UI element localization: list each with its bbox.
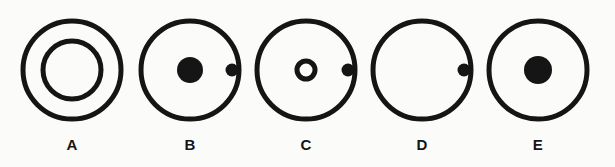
option-e[interactable]: E bbox=[480, 0, 596, 167]
option-b[interactable]: B bbox=[132, 0, 248, 167]
option-label-b: B bbox=[132, 136, 248, 154]
outer-circle bbox=[373, 21, 471, 119]
right-small-dot bbox=[226, 64, 239, 77]
center-small-ring bbox=[297, 61, 315, 79]
option-d[interactable]: D bbox=[364, 0, 480, 167]
option-label-c: C bbox=[248, 136, 364, 154]
option-c-drawing bbox=[248, 0, 364, 134]
option-label-e: E bbox=[480, 136, 596, 154]
outer-circle bbox=[23, 21, 121, 119]
option-a[interactable]: A bbox=[14, 0, 130, 167]
right-small-dot bbox=[342, 64, 355, 77]
option-c[interactable]: C bbox=[248, 0, 364, 167]
option-a-drawing bbox=[14, 0, 130, 134]
option-b-drawing bbox=[132, 0, 248, 134]
option-e-drawing bbox=[480, 0, 596, 134]
option-label-a: A bbox=[14, 136, 130, 154]
center-large-dot bbox=[177, 57, 203, 83]
right-small-dot bbox=[458, 64, 471, 77]
figure-options-panel: ABCDE bbox=[0, 0, 615, 167]
option-label-d: D bbox=[364, 136, 480, 154]
outer-circle bbox=[257, 21, 355, 119]
option-d-drawing bbox=[364, 0, 480, 134]
inner-concentric-ring bbox=[43, 41, 101, 99]
center-large-dot bbox=[524, 56, 552, 84]
